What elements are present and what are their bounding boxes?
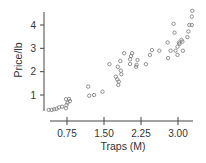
y-tick-label: 3 — [30, 43, 36, 54]
data-point — [119, 69, 122, 72]
data-point — [88, 94, 91, 97]
data-point — [158, 49, 161, 52]
data-points — [47, 9, 194, 112]
data-point — [120, 73, 123, 76]
data-point — [123, 52, 126, 55]
y-tick-label: 2 — [30, 66, 36, 77]
data-point — [128, 62, 131, 65]
data-point — [173, 31, 176, 34]
y-axis-title: Price/lb — [12, 42, 24, 77]
y-tick-label: 1 — [30, 90, 36, 101]
data-point — [117, 83, 120, 86]
data-point — [172, 22, 175, 25]
x-tick-label: 1.50 — [94, 128, 114, 139]
data-point — [169, 49, 172, 52]
x-tick-label: 2.25 — [131, 128, 151, 139]
data-point — [186, 35, 189, 38]
x-axis: 0.751.502.253.00 Traps (M) — [50, 117, 193, 152]
data-point — [148, 53, 151, 56]
data-point — [108, 62, 111, 65]
data-point — [174, 49, 177, 52]
data-point — [136, 58, 139, 61]
data-point — [128, 58, 131, 61]
data-point — [87, 85, 90, 88]
data-point — [176, 53, 179, 56]
data-point — [166, 56, 169, 59]
data-point — [92, 93, 95, 96]
data-point — [116, 65, 119, 68]
data-point — [187, 30, 190, 33]
data-point — [191, 9, 194, 12]
scatter-chart: 1234 Price/lb 0.751.502.253.00 Traps (M) — [0, 0, 206, 163]
data-point — [119, 59, 122, 62]
x-tick-label: 0.75 — [57, 128, 77, 139]
y-tick-label: 4 — [30, 20, 36, 31]
x-tick-label: 3.00 — [168, 128, 188, 139]
y-axis: 1234 Price/lb — [12, 12, 44, 111]
data-point — [150, 48, 153, 51]
data-point — [190, 15, 193, 18]
data-point — [144, 62, 147, 65]
data-point — [64, 107, 67, 110]
data-point — [101, 90, 104, 93]
data-point — [166, 41, 169, 44]
x-axis-title: Traps (M) — [100, 140, 145, 152]
data-point — [181, 49, 184, 52]
